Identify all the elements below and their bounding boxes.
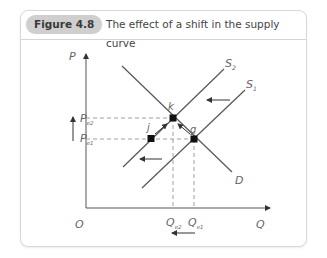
guide-lines [86, 118, 194, 208]
origin-label: O [75, 218, 84, 231]
d-label: D [235, 174, 243, 187]
j-label: j [145, 122, 150, 133]
pe2-label: Pe2 [80, 112, 94, 126]
demand-curve [122, 66, 232, 172]
s1-label: S1 [246, 78, 257, 92]
curves [122, 66, 245, 188]
arrow-j-to-k [155, 124, 167, 134]
supply-shift-diagram: P Q O S2 S1 D k j g Pe2 Pe1 Qe2 Qe1 [0, 0, 327, 258]
shift-arrows [73, 100, 230, 233]
point-k [170, 115, 177, 122]
qe2-label: Qe2 [166, 216, 182, 230]
x-axis-label: Q [256, 218, 265, 231]
qe1-label: Qe1 [188, 216, 204, 230]
k-label: k [168, 101, 175, 112]
point-g [191, 136, 198, 143]
s2-label: S2 [225, 57, 236, 71]
g-label: g [190, 124, 196, 135]
point-j [148, 135, 155, 142]
y-axis-label: P [69, 50, 76, 63]
